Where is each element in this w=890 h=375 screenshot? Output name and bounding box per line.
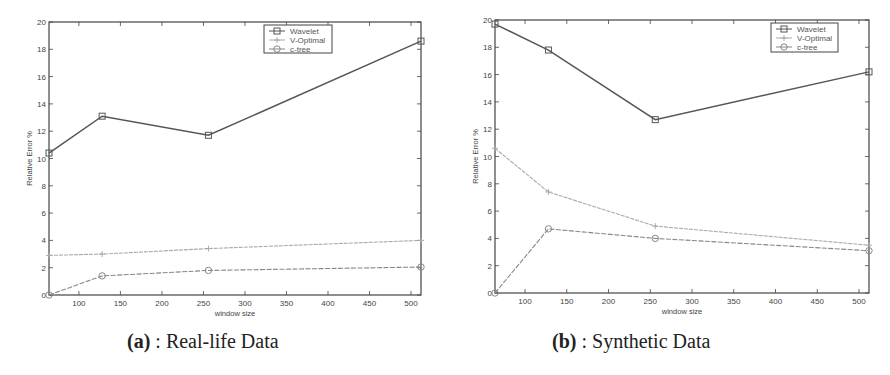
- line-chart-b: 1001502002503003504004505000246810121416…: [445, 0, 890, 320]
- x-tick-label: 250: [644, 297, 658, 306]
- chart-panel-b: 1001502002503003504004505000246810121416…: [445, 0, 890, 375]
- y-tick-label: 18: [37, 45, 46, 54]
- x-tick-label: 450: [811, 297, 825, 306]
- series-c-tree: [492, 226, 872, 297]
- legend-entry: V-Optimal: [797, 34, 832, 43]
- caption-a-text: : Real-life Data: [150, 330, 278, 352]
- legend-entry: c-tree: [797, 43, 818, 52]
- y-tick-label: 8: [488, 180, 493, 189]
- y-tick-label: 16: [37, 73, 46, 82]
- x-tick-label: 100: [518, 297, 532, 306]
- x-tick-label: 450: [363, 299, 377, 308]
- caption-a: (a) : Real-life Data: [127, 330, 279, 353]
- series-c-tree: [46, 264, 424, 298]
- y-axis-label: Relative Error %: [471, 129, 480, 184]
- series-v-optimal: [46, 237, 424, 258]
- caption-a-label: (a): [127, 330, 150, 352]
- x-tick-label: 400: [321, 299, 335, 308]
- x-tick-label: 300: [238, 299, 252, 308]
- x-tick-label: 100: [72, 299, 86, 308]
- x-tick-label: 200: [155, 299, 169, 308]
- legend-entry: V-Optimal: [290, 36, 325, 45]
- y-tick-label: 10: [483, 153, 492, 162]
- caption-b-text: : Synthetic Data: [576, 330, 710, 352]
- y-tick-label: 18: [483, 43, 492, 52]
- y-tick-label: 10: [37, 155, 46, 164]
- y-tick-label: 6: [488, 207, 493, 216]
- y-tick-label: 2: [488, 262, 493, 271]
- line-chart-a: 1001502002503003504004505000246810121416…: [0, 0, 445, 320]
- y-tick-label: 8: [42, 182, 47, 191]
- caption-b: (b) : Synthetic Data: [552, 330, 710, 353]
- axes: 1001502002503003504004505000246810121416…: [25, 18, 421, 318]
- plot-frame: [495, 20, 869, 293]
- legend-entry: c-tree: [290, 45, 311, 54]
- x-tick-label: 250: [197, 299, 211, 308]
- x-tick-label: 500: [852, 297, 866, 306]
- x-tick-label: 400: [769, 297, 783, 306]
- x-tick-label: 350: [280, 299, 294, 308]
- y-tick-label: 12: [37, 127, 46, 136]
- series-v-optimal: [492, 145, 872, 248]
- y-tick-label: 4: [488, 234, 493, 243]
- x-tick-label: 150: [560, 297, 574, 306]
- axes: 1001502002503003504004505000246810121416…: [471, 16, 869, 316]
- x-tick-label: 350: [727, 297, 741, 306]
- series-wavelet: [46, 38, 424, 156]
- x-tick-label: 300: [685, 297, 699, 306]
- legend-entry: Wavelet: [797, 25, 826, 34]
- x-axis-label: window size: [214, 309, 255, 318]
- legend: WaveletV-Optimalc-tree: [771, 23, 838, 52]
- x-tick-label: 500: [404, 299, 418, 308]
- y-tick-label: 6: [42, 209, 47, 218]
- y-tick-label: 4: [42, 236, 47, 245]
- y-tick-label: 2: [42, 264, 47, 273]
- y-tick-label: 14: [483, 98, 492, 107]
- caption-b-label: (b): [552, 330, 576, 352]
- y-tick-label: 16: [483, 71, 492, 80]
- y-tick-label: 20: [483, 16, 492, 25]
- legend: WaveletV-Optimalc-tree: [264, 25, 332, 54]
- y-tick-label: 14: [37, 100, 46, 109]
- x-tick-label: 150: [114, 299, 128, 308]
- x-axis-label: window size: [661, 307, 702, 316]
- y-tick-label: 20: [37, 18, 46, 27]
- y-axis-label: Relative Error %: [25, 131, 34, 186]
- legend-entry: Wavelet: [290, 27, 319, 36]
- chart-panel-a: 1001502002503003504004505000246810121416…: [0, 0, 445, 375]
- y-tick-label: 12: [483, 125, 492, 134]
- x-tick-label: 200: [602, 297, 616, 306]
